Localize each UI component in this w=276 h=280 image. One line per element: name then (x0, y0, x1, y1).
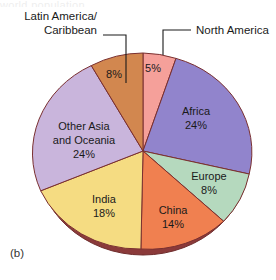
leader-line-north-america (163, 30, 191, 55)
label-latin-america-line1: Latin America/ (24, 10, 98, 22)
label-other-asia-line2: and Oceania (53, 134, 116, 146)
label-europe: Europe (191, 170, 226, 182)
value-europe: 8% (201, 184, 217, 196)
pie-chart: Latin America/ Caribbean North America 8… (0, 0, 276, 280)
panel-label: (b) (10, 247, 24, 259)
value-africa: 24% (185, 119, 207, 131)
figure-container: world population Latin America/ Caribbea… (0, 0, 276, 280)
label-china: China (159, 204, 189, 216)
value-north-america: 5% (145, 62, 161, 74)
value-china: 14% (162, 218, 184, 230)
value-india: 18% (93, 207, 115, 219)
label-other-asia-line1: Other Asia (58, 120, 110, 132)
label-india: India (92, 193, 117, 205)
value-latin-america: 8% (106, 68, 122, 80)
label-north-america: North America (196, 24, 269, 36)
value-other-asia: 24% (73, 148, 95, 160)
label-latin-america-line2: Caribbean (44, 24, 97, 36)
label-africa: Africa (182, 105, 211, 117)
